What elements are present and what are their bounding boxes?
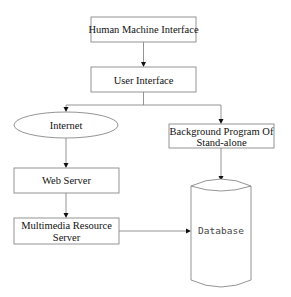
node-label: User Interface: [114, 75, 174, 86]
node-user-interface: User Interface: [91, 67, 196, 92]
node-label: Database: [198, 225, 244, 236]
node-multimedia-resource-server: Multimedia Resource Server: [14, 218, 119, 244]
arrow-head-icon: [141, 62, 146, 67]
node-label-line2: Server: [53, 232, 81, 243]
node-background-program: Background Program Of Stand-alone: [169, 124, 274, 148]
node-label-line2: Stand-alone: [196, 137, 246, 148]
node-label-line1: Multimedia Resource: [21, 220, 112, 231]
node-label: Human Machine Interface: [88, 24, 199, 35]
architecture-diagram: Human Machine Interface User Interface I…: [0, 0, 291, 297]
node-database: Database: [191, 179, 251, 287]
node-label-line1: Background Program Of: [170, 126, 274, 137]
node-web-server: Web Server: [14, 168, 119, 193]
arrow-head-icon: [64, 107, 69, 112]
node-label: Internet: [50, 120, 83, 131]
arrow-head-icon: [64, 213, 69, 218]
node-human-machine-interface: Human Machine Interface: [88, 17, 199, 42]
arrow-head-icon: [219, 119, 224, 124]
node-internet: Internet: [14, 112, 118, 138]
arrow-head-icon: [186, 229, 191, 234]
arrow-head-icon: [64, 163, 69, 168]
node-label: Web Server: [42, 175, 92, 186]
